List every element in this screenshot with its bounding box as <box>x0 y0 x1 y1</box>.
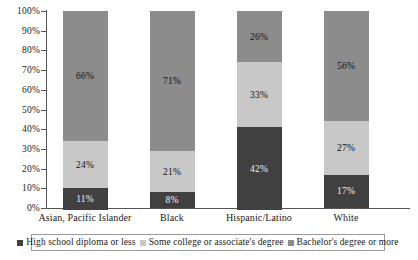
bar-segment[interactable]: 11% <box>63 188 108 210</box>
y-axis-tick-label: 10% <box>2 183 40 193</box>
legend-item-label: Some college or associate's degree <box>149 237 284 248</box>
legend-swatch-icon <box>288 240 294 246</box>
bar-segment-value-label: 42% <box>250 164 268 174</box>
chart-legend: High school diploma or lessSome college … <box>31 234 385 251</box>
legend-swatch-icon <box>17 240 23 246</box>
bar-group[interactable]: 71%21%8% <box>150 11 195 208</box>
bar-segment[interactable]: 71% <box>150 11 195 151</box>
bar-segment-value-label: 27% <box>337 143 355 153</box>
legend-item[interactable]: Bachelor's degree or more <box>286 237 401 248</box>
legend-item[interactable]: Some college or associate's degree <box>138 237 286 248</box>
y-axis-tick-label: 60% <box>2 85 40 95</box>
stacked-bar-chart: 100%90%80%70%60%50%40%30%20%10%0% 66%24%… <box>0 0 418 260</box>
y-axis-label-slot: 10% <box>0 183 40 193</box>
legend-item[interactable]: High school diploma or less <box>15 237 137 248</box>
bar-segment-value-label: 26% <box>250 32 268 42</box>
y-axis-tick-label: 90% <box>2 26 40 36</box>
y-axis-tick-label: 40% <box>2 124 40 134</box>
bar-group[interactable]: 66%24%11% <box>63 11 108 208</box>
bar-segment-value-label: 24% <box>76 160 94 170</box>
bar-segment-value-label: 11% <box>76 194 94 204</box>
bar-segment-value-label: 71% <box>163 76 181 86</box>
bar-segment-value-label: 8% <box>165 195 178 205</box>
bar-segment-value-label: 21% <box>163 167 181 177</box>
y-axis-tick-label: 70% <box>2 65 40 75</box>
x-axis-category-label: White <box>276 212 416 224</box>
bar-segment[interactable]: 56% <box>324 11 369 121</box>
plot-area: 66%24%11%71%21%8%26%33%42%56%27%17% <box>47 11 410 208</box>
bar-segment-value-label: 56% <box>337 61 355 71</box>
bar-segment[interactable]: 27% <box>324 121 369 174</box>
y-axis-label-slot: 100% <box>0 6 40 16</box>
y-axis-label-slot: 70% <box>0 65 40 75</box>
y-axis-tick-label: 20% <box>2 164 40 174</box>
bar-segment[interactable]: 21% <box>150 151 195 192</box>
legend-item-label: High school diploma or less <box>26 237 135 248</box>
legend-swatch-icon <box>140 240 146 246</box>
bar-segment-value-label: 17% <box>337 186 355 196</box>
legend-item-label: Bachelor's degree or more <box>297 237 399 248</box>
y-axis-label-slot: 90% <box>0 26 40 36</box>
bar-segment-value-label: 66% <box>76 71 94 81</box>
bar-segment[interactable]: 17% <box>324 175 369 208</box>
bar-segment[interactable]: 42% <box>237 127 282 210</box>
bar-segment[interactable]: 26% <box>237 11 282 62</box>
y-axis-tick-label: 80% <box>2 45 40 55</box>
y-axis-tick-label: 50% <box>2 105 40 115</box>
bar-segment[interactable]: 8% <box>150 192 195 208</box>
y-axis-label-slot: 60% <box>0 85 40 95</box>
y-axis-label-slot: 30% <box>0 144 40 154</box>
bar-segment[interactable]: 24% <box>63 141 108 188</box>
y-axis-label-slot: 40% <box>0 124 40 134</box>
y-axis-label-slot: 20% <box>0 164 40 174</box>
y-axis-tick-label: 100% <box>2 6 40 16</box>
bar-group[interactable]: 56%27%17% <box>324 11 369 208</box>
bar-segment[interactable]: 66% <box>63 11 108 141</box>
bar-group[interactable]: 26%33%42% <box>237 11 282 208</box>
y-axis-label-slot: 50% <box>0 105 40 115</box>
y-axis-label-slot: 80% <box>0 45 40 55</box>
bar-segment[interactable]: 33% <box>237 62 282 127</box>
bar-segment-value-label: 33% <box>250 90 268 100</box>
y-axis-tick-label: 30% <box>2 144 40 154</box>
